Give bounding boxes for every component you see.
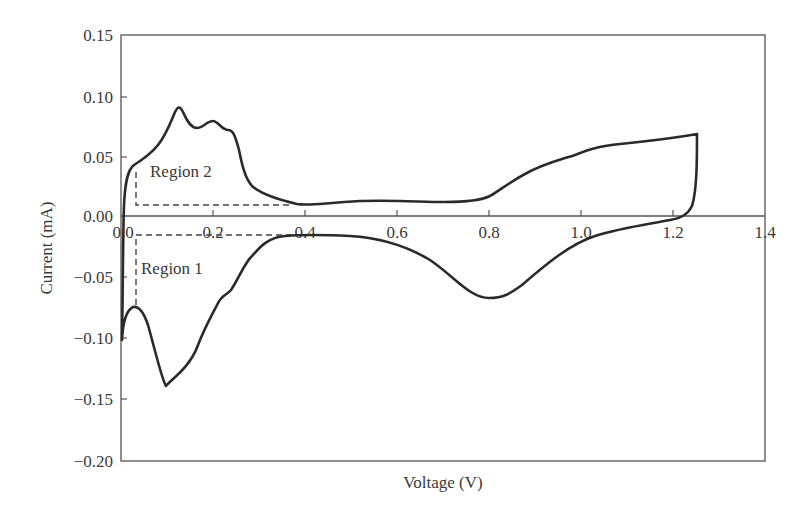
x-tick-label: 0.6 [386,223,407,242]
x-tick-label: 1.4 [754,223,776,242]
y-tick-label: 0.10 [83,88,113,107]
x-tick-label: 0.2 [202,223,223,242]
x-tick-label: 0.8 [478,223,499,242]
x-ticks [213,210,673,216]
x-axis-title: Voltage (V) [403,473,482,492]
y-tick-label: 0.00 [83,207,113,226]
x-tick-labels: 0.0 0.2 0.4 0.6 0.8 1.0 1.2 1.4 [112,223,776,242]
plot-frame [121,35,765,461]
y-axis-title: Current (mA) [37,201,56,294]
anodic-curve [122,108,697,387]
y-tick-labels: 0.15 0.10 0.05 0.00 −0.05 −0.10 −0.15 −0… [74,26,113,471]
y-tick-label: −0.20 [74,452,113,471]
y-tick-label: 0.15 [83,26,113,45]
x-tick-label: 0.4 [294,223,316,242]
cv-chart: 0.15 0.10 0.05 0.00 −0.05 −0.10 −0.15 −0… [0,0,811,515]
y-tick-label: −0.05 [74,268,113,287]
y-tick-label: −0.10 [74,329,113,348]
y-tick-label: 0.05 [83,148,113,167]
region-2-label: Region 2 [150,162,212,181]
y-tick-label: −0.15 [74,390,113,409]
region-1-label: Region 1 [141,259,203,278]
x-tick-label: 1.2 [662,223,683,242]
